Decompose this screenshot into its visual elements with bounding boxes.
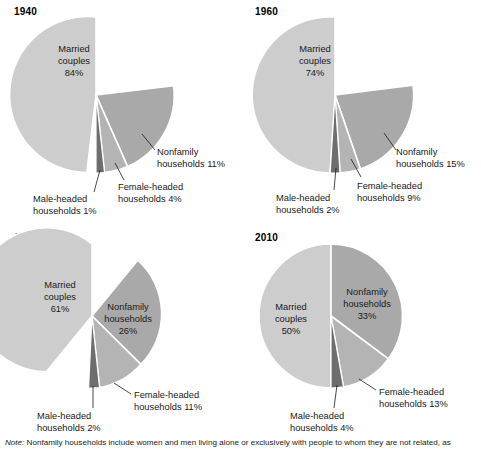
callout-label-female-line2: households 13% <box>379 399 448 409</box>
callout-label-male-line1: Male-headed <box>33 194 87 204</box>
callout-male-headed-2010: Male-headed households 4% <box>290 385 354 433</box>
callout-label-nonfamily-line2: households 15% <box>396 159 465 169</box>
callout-label-female-line1: Female-headed <box>379 387 444 397</box>
household-composition-figure: 1940 Married couples 84% Nonfamily hous <box>0 0 481 456</box>
callout-label-female-line1: Female-headed <box>134 390 199 400</box>
note-label: Note: <box>5 438 24 447</box>
callout-female-headed-2010: Female-headed households 13% <box>359 379 448 409</box>
pie-slices-1960 <box>252 17 413 173</box>
slice-label-married-line2: couples <box>58 56 90 66</box>
callout-label-male-line2: households 4% <box>290 423 354 433</box>
slice-label-nonfamily-value: 33% <box>358 311 377 321</box>
slice-label-nonfamily-line2: households <box>343 299 391 309</box>
callout-label-female-line2: households 11% <box>134 402 202 412</box>
pie-chart-1980: Married couples 61% Nonfamily households… <box>0 228 240 428</box>
pie-chart-1940: Married couples 84% Nonfamily households… <box>0 0 240 214</box>
pie-chart-1960: Married couples 74% Nonfamily households… <box>241 0 481 214</box>
slice-label-married-value: 50% <box>282 326 301 336</box>
pie-panel-2010: 2010 Married couples 50% Nonfamily house… <box>241 228 481 442</box>
callout-label-female-line1: Female-headed <box>118 182 183 192</box>
pie-panel-1960: 1960 Married couples 74% Nonfamily hous <box>241 0 481 214</box>
slice-label-married-line2: couples <box>44 292 76 302</box>
note-text: Nonfamily households include women and m… <box>24 438 451 447</box>
callout-label-male-line1: Male-headed <box>37 411 91 421</box>
callout-label-female-line2: households 4% <box>118 194 182 204</box>
pie-slice-married-couples[interactable] <box>252 17 335 173</box>
callout-label-male-line1: Male-headed <box>276 193 330 203</box>
slice-label-married-line2: couples <box>299 56 331 66</box>
pie-panel-1940: 1940 Married couples 84% Nonfamily hous <box>0 0 240 214</box>
slice-label-married-line1: Married <box>58 44 90 54</box>
callout-label-female-line1: Female-headed <box>357 181 422 191</box>
callout-label-nonfamily-line1: Nonfamily <box>396 147 438 157</box>
leader-line-female-headed <box>359 379 376 390</box>
slice-label-nonfamily-line1: Nonfamily <box>107 302 149 312</box>
slice-label-married-value: 61% <box>51 304 70 314</box>
slice-label-married-line1: Married <box>44 280 76 290</box>
callout-female-headed-1940: Female-headed households 4% <box>115 163 183 204</box>
callout-label-nonfamily-line2: households 11% <box>157 159 225 169</box>
callout-female-headed-1980: Female-headed households 11% <box>114 383 202 412</box>
callout-label-male-line1: Male-headed <box>290 411 344 421</box>
callout-male-headed-1940: Male-headed households 1% <box>33 170 100 216</box>
leader-line-female-headed <box>114 383 131 394</box>
callout-male-headed-1980: Male-headed households 2% <box>37 386 101 433</box>
callout-label-male-line2: households 2% <box>37 423 101 433</box>
pie-slice-married-couples[interactable] <box>10 17 96 173</box>
pie-chart-2010: Married couples 50% Nonfamily households… <box>241 228 481 428</box>
pie-panel-1980: 1980 Married couples 61% Nonfamily house… <box>0 228 240 442</box>
callout-label-male-line2: households 1% <box>33 206 97 216</box>
pie-slices-1940 <box>10 17 175 173</box>
slice-label-nonfamily-line2: households <box>104 314 152 324</box>
callout-label-female-line2: households 9% <box>357 193 421 203</box>
slice-label-married-line1: Married <box>275 302 307 312</box>
slice-label-married-line1: Married <box>299 44 331 54</box>
figure-note: Note: Nonfamily households include women… <box>5 438 479 448</box>
slice-label-married-line2: couples <box>275 314 307 324</box>
slice-label-nonfamily-value: 26% <box>119 326 138 336</box>
callout-label-nonfamily-line1: Nonfamily <box>157 147 199 157</box>
callout-male-headed-1960: Male-headed households 2% <box>276 168 340 215</box>
slice-label-married-value: 74% <box>306 68 325 78</box>
slice-label-married-value: 84% <box>65 68 84 78</box>
callout-label-male-line2: households 2% <box>276 205 340 215</box>
slice-label-nonfamily-line1: Nonfamily <box>346 287 388 297</box>
